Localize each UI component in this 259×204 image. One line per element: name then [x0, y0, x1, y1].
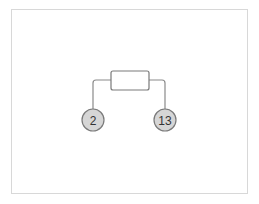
wire-right — [149, 80, 165, 109]
circuit-diagram: 2 13 — [0, 0, 259, 204]
node-13: 13 — [154, 109, 176, 131]
node-2-label: 2 — [90, 114, 97, 128]
node-2: 2 — [82, 109, 104, 131]
component-box — [111, 71, 149, 90]
node-13-label: 13 — [158, 114, 172, 128]
wire-left — [93, 80, 111, 109]
